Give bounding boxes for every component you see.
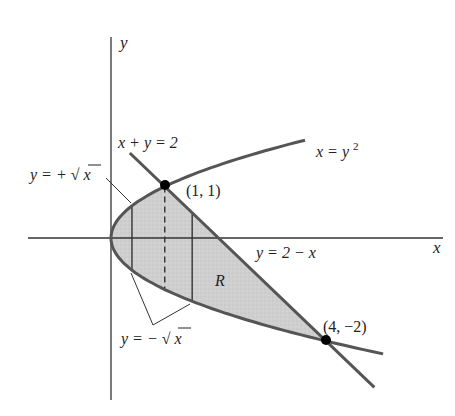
line-label-alt: y = 2 − x [254, 244, 316, 262]
region-label: R [214, 272, 225, 289]
upper-branch-var: x [82, 166, 90, 183]
parabola-label-exponent: 2 [353, 140, 359, 152]
upper-branch-label: y = + √ x [28, 166, 91, 184]
line-label-top: x + y = 2 [117, 134, 178, 152]
upper-branch-label-pre: y = + [28, 166, 67, 184]
upper-branch-leader [106, 178, 131, 203]
point-4-neg2-marker [321, 335, 331, 345]
lower-branch-var: x [173, 330, 181, 347]
region-diagram: y x x + y = 2 x = y 2 y = + √ x (1, 1) y… [0, 0, 455, 416]
parabola-label: x = y 2 [315, 140, 359, 161]
region-r-fill [111, 187, 326, 342]
upper-branch-radical: √ [71, 166, 80, 183]
point-1-1-marker [160, 180, 170, 190]
point-1-1-label: (1, 1) [186, 182, 221, 200]
point-4-neg2-label: (4, −2) [323, 318, 367, 336]
y-axis-label: y [118, 33, 128, 52]
lower-branch-label-pre: y = − [119, 330, 158, 348]
x-axis-label: x [432, 238, 441, 257]
parabola-label-main: x = y [315, 143, 350, 161]
lower-branch-radical: √ [162, 330, 171, 347]
lower-branch-label: y = − √ x [119, 330, 182, 348]
